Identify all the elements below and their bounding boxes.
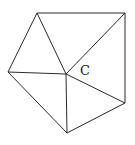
edge-bottom-left [8, 72, 67, 133]
center-vertex-label: C [80, 63, 90, 78]
edge-C-bottom [66, 74, 67, 133]
edge-C-left [8, 72, 66, 74]
edge-right-bottom [67, 103, 125, 133]
diagram-edges [8, 13, 125, 133]
edge-C-top_right [66, 13, 125, 74]
edge-C-right [66, 74, 125, 103]
edge-C-top_left [37, 13, 66, 74]
edge-left-top_left [8, 13, 37, 72]
triangulated-pentagon-diagram: C [0, 0, 135, 145]
